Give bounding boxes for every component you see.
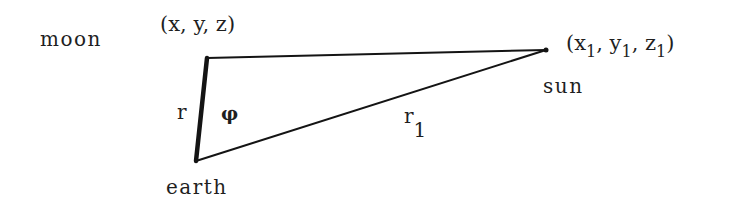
sun-coords-x: x [574, 31, 586, 55]
sun-coordinates: (x1, y1, z1) [566, 33, 674, 54]
r1-label-main: r [404, 104, 414, 128]
moon-coordinates: (x, y, z) [160, 14, 235, 35]
edge-moon-sun [207, 50, 546, 58]
r-label: r [177, 102, 187, 122]
edge-earth-sun [196, 50, 546, 161]
sun-coords-y: y [610, 31, 622, 55]
sun-coords-z: z [645, 31, 656, 55]
sun-coords-open: ( [566, 31, 574, 55]
sun-coords-close: ) [666, 31, 674, 55]
sun-coords-z-sub: 1 [656, 42, 666, 61]
moon-label: moon [40, 29, 102, 49]
moon-earth-sun-diagram: moon (x, y, z) (x1, y1, z1) sun r φ r1 e… [0, 0, 732, 201]
edge-earth-moon [196, 58, 207, 161]
r1-label: r1 [404, 106, 426, 130]
sun-coords-x-sub: 1 [586, 42, 596, 61]
earth-label: earth [166, 177, 228, 197]
sun-label: sun [543, 76, 584, 96]
r1-label-sub: 1 [414, 118, 427, 142]
sun-coords-sep1: , [596, 31, 609, 55]
phi-angle-label: φ [221, 104, 238, 123]
sun-point [544, 48, 549, 53]
sun-coords-y-sub: 1 [621, 42, 631, 61]
sun-coords-sep2: , [632, 31, 645, 55]
triangle-edges [0, 0, 732, 201]
